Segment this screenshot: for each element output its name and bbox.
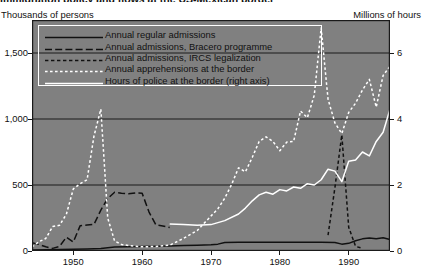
legend-key-icon — [43, 63, 105, 74]
legend-item-label: Hours of police at the border (right axi… — [105, 75, 270, 86]
x-axis-tick — [142, 251, 143, 255]
x-axis-tick-label: 1970 — [189, 256, 233, 267]
y2-axis-tick — [390, 185, 394, 186]
x-axis-tick — [279, 251, 280, 255]
legend-key-icon — [43, 29, 105, 40]
y2-axis-tick-label: 4 — [397, 113, 402, 124]
y2-axis-tick — [390, 119, 394, 120]
y-axis-tick-label: 500 — [0, 179, 28, 190]
legend-item-label: Annual regular admissions — [105, 29, 215, 40]
left-axis-caption: Thousands of persons — [1, 9, 94, 20]
x-axis-tick — [348, 251, 349, 255]
series-line — [170, 109, 390, 225]
y-axis-tick — [28, 185, 32, 186]
legend-item: Annual admissions, Bracero programme — [43, 40, 321, 51]
x-axis-tick — [73, 251, 74, 255]
legend-item-label: Annual apprehensions at the border — [105, 63, 254, 74]
series-line — [328, 135, 362, 249]
x-axis-tick-label: 1980 — [258, 256, 302, 267]
y-axis-tick — [28, 119, 32, 120]
x-axis-tick — [211, 251, 212, 255]
legend-items: Annual regular admissionsAnnual admissio… — [39, 26, 321, 85]
y2-axis-tick — [390, 53, 394, 54]
legend-key-icon — [43, 75, 105, 86]
x-axis-tick-label: 1990 — [327, 256, 371, 267]
legend-key-icon — [43, 41, 105, 52]
chart-legend: Annual regular admissionsAnnual admissio… — [38, 25, 322, 86]
y-axis-tick-label: 1,500 — [0, 47, 28, 58]
y-axis-tick — [28, 251, 32, 252]
series-line — [32, 238, 390, 250]
legend-item-label: Annual admissions, IRCS legalization — [105, 52, 261, 63]
series-line — [32, 192, 170, 248]
chart-title: Immigration policy and flows at the US-M… — [0, 0, 423, 2]
legend-item: Annual apprehensions at the border — [43, 63, 321, 74]
x-axis-tick-label: 1960 — [120, 256, 164, 267]
legend-key-icon — [43, 52, 105, 63]
legend-item: Annual admissions, IRCS legalization — [43, 52, 321, 63]
legend-item: Annual regular admissions — [43, 29, 321, 40]
y2-axis-tick-label: 6 — [397, 47, 402, 58]
y2-axis-tick — [390, 251, 394, 252]
x-axis-tick-label: 1950 — [51, 256, 95, 267]
y-axis-tick-label: 0 — [0, 245, 28, 256]
y-axis-tick — [28, 53, 32, 54]
legend-item: Hours of police at the border (right axi… — [43, 75, 321, 86]
legend-item-label: Annual admissions, Bracero programme — [105, 41, 272, 52]
y2-axis-tick-label: 2 — [397, 179, 402, 190]
y-axis-tick-label: 1,000 — [0, 113, 28, 124]
y2-axis-tick-label: 0 — [397, 245, 402, 256]
right-axis-caption: Millions of hours — [353, 9, 421, 20]
chart-figure: Immigration policy and flows at the US-M… — [0, 0, 423, 270]
